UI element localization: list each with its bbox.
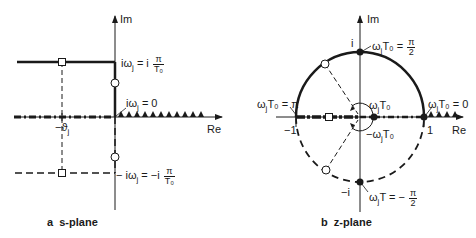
- z-point-inner: [371, 114, 378, 121]
- s-zero-frequency-label: iωj = 0: [126, 98, 157, 112]
- s-bottom-frequency-label: − iωj = −i πT₀: [116, 167, 175, 186]
- z-tick-i-label: i: [351, 38, 353, 49]
- z-open-circle-upper: [321, 60, 329, 68]
- z-tick-minus-one-label: −1: [284, 125, 297, 136]
- s-top-frequency-label: iωj = i πT₀: [121, 55, 164, 74]
- z-im-label: Im: [367, 14, 379, 25]
- s-circle-lower: [111, 153, 119, 161]
- z-plane-caption: b z-plane: [321, 216, 372, 228]
- z-bottom-frequency-label: ωjT = − π2: [369, 189, 417, 208]
- s-circle-upper: [111, 79, 119, 87]
- z-angle-positive-label: ωjT₀: [369, 100, 391, 114]
- s-sigma-label: −ϑj: [55, 122, 69, 136]
- s-plane-caption: a s-plane: [47, 216, 98, 228]
- z-plane-diagram: [276, 16, 463, 212]
- z-radial-lower: [326, 120, 358, 170]
- s-im-label: Im: [120, 14, 132, 25]
- z-tick-one-label: 1: [427, 125, 433, 136]
- z-pi-frequency-label: ωjT₀ = π: [257, 99, 299, 113]
- s-square-bottom: [59, 170, 66, 177]
- z-angle-negative-label: −ωjT₀: [366, 129, 394, 143]
- z-open-circle-lower: [322, 166, 330, 174]
- z-point-minus-i: [357, 179, 364, 186]
- z-tick-minus-i-label: −i: [341, 187, 350, 198]
- z-point-i: [357, 49, 364, 56]
- z-top-frequency-label: ωjT₀ = π2: [372, 38, 415, 57]
- z-re-label: Re: [452, 125, 466, 136]
- s-re-label: Re: [207, 124, 221, 135]
- z-zero-frequency-label: ωjT₀ = 0: [428, 99, 468, 113]
- s-square-top: [59, 59, 66, 66]
- z-radial-upper: [325, 64, 358, 114]
- z-square: [326, 114, 333, 121]
